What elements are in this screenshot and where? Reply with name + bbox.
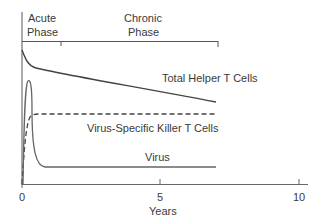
helper-t-cells-label: Total Helper T Cells <box>162 72 258 84</box>
killer-t-cells-label: Virus-Specific Killer T Cells <box>87 122 219 134</box>
chronic-phase-label-2: Phase <box>128 26 159 38</box>
virus-label: Virus <box>145 151 170 163</box>
x-tick-label-5: 5 <box>157 191 163 203</box>
x-axis-label: Years <box>149 205 177 217</box>
chart: Acute Phase Chronic Phase Total Helper T… <box>0 0 320 223</box>
acute-phase-label-1: Acute <box>28 12 56 24</box>
x-tick-label-10: 10 <box>293 191 305 203</box>
acute-phase-label-2: Phase <box>27 26 58 38</box>
chronic-phase-label-1: Chronic <box>124 12 162 24</box>
x-tick-label-0: 0 <box>19 191 25 203</box>
